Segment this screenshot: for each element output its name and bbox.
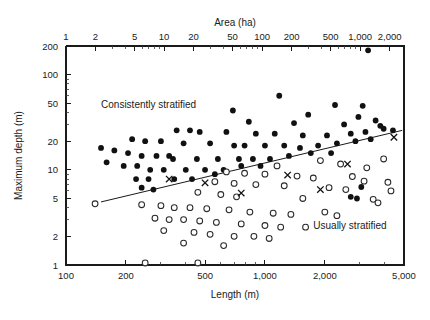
data-point-open — [171, 205, 177, 211]
data-point-filled — [133, 176, 139, 182]
data-point-filled — [242, 143, 248, 149]
y-tick-label: 20 — [47, 136, 58, 147]
data-point-filled — [111, 147, 117, 153]
data-point-cross — [284, 172, 290, 178]
top-tick-label: 2,000 — [378, 31, 402, 42]
tick-labels-group: 1002005001,0002,0005,0001251020501002001… — [42, 31, 416, 281]
scatter-plot-figure: 1002005001,0002,0005,0001251020501002001… — [0, 0, 430, 320]
data-point-open — [181, 217, 187, 223]
data-point-filled — [250, 156, 256, 162]
data-point-filled — [187, 127, 193, 133]
y-tick-label: 1 — [53, 260, 58, 271]
x-tick-label: 500 — [197, 270, 213, 281]
data-point-open — [343, 187, 349, 193]
data-point-open — [197, 218, 203, 224]
data-point-cross — [238, 190, 244, 196]
data-point-open — [152, 215, 158, 221]
y-tick-label: 2 — [53, 231, 58, 242]
data-point-filled — [356, 114, 362, 120]
data-point-filled — [238, 163, 244, 169]
data-point-open — [334, 213, 340, 219]
top-tick-label: 1 — [63, 31, 68, 42]
data-point-open — [375, 200, 381, 206]
data-point-filled — [305, 112, 311, 118]
y-tick-label: 50 — [47, 98, 58, 109]
data-point-open — [388, 188, 394, 194]
data-point-open — [204, 206, 210, 212]
data-point-filled — [300, 132, 306, 138]
data-point-open — [253, 182, 259, 188]
data-point-filled — [134, 163, 140, 169]
data-point-filled — [170, 156, 176, 162]
data-point-open — [242, 170, 248, 176]
top-tick-label: 500 — [323, 31, 339, 42]
data-point-filled — [104, 159, 110, 165]
data-point-filled — [125, 150, 131, 156]
data-point-filled — [154, 153, 160, 159]
data-point-filled — [194, 156, 200, 162]
tick-marks-group — [66, 46, 404, 265]
axes-group — [66, 46, 404, 265]
data-point-filled — [158, 138, 164, 144]
y-tick-label: 5 — [53, 193, 58, 204]
data-point-filled — [207, 140, 213, 146]
axis-titles-group: Area (ha)Length (m)Maximum depth (m) — [13, 17, 259, 300]
data-point-filled — [365, 47, 371, 53]
data-point-filled — [142, 138, 148, 144]
left-axis-title: Maximum depth (m) — [13, 111, 24, 200]
data-point-open — [207, 231, 213, 237]
y-tick-label: 10 — [47, 164, 58, 175]
data-point-open — [213, 220, 219, 226]
data-point-open — [262, 223, 268, 229]
data-point-open — [166, 217, 172, 223]
data-point-open — [231, 233, 237, 239]
data-point-filled — [341, 122, 347, 128]
data-point-open — [318, 158, 324, 164]
data-point-filled — [139, 153, 145, 159]
data-points-group — [92, 47, 397, 265]
data-point-open — [281, 183, 287, 189]
data-point-open — [288, 212, 294, 218]
top-tick-label: 50 — [227, 31, 238, 42]
data-point-filled — [174, 127, 180, 133]
data-point-cross — [317, 186, 323, 192]
data-point-filled — [328, 150, 334, 156]
data-point-filled — [373, 118, 379, 124]
data-point-open — [251, 233, 257, 239]
data-point-open — [385, 179, 391, 185]
data-point-filled — [324, 132, 330, 138]
data-point-open — [310, 175, 316, 181]
data-point-filled — [360, 103, 366, 109]
data-point-open — [270, 210, 276, 216]
data-point-open — [338, 161, 344, 167]
data-point-filled — [354, 196, 360, 202]
data-point-filled — [315, 143, 321, 149]
data-point-open — [278, 224, 284, 230]
data-point-filled — [286, 153, 292, 159]
data-point-filled — [231, 143, 237, 149]
data-point-cross — [344, 161, 350, 167]
data-point-cross — [391, 134, 397, 140]
data-point-open — [262, 171, 268, 177]
data-point-open — [158, 203, 164, 209]
region-label-usually-stratified: Usually stratified — [313, 220, 386, 231]
data-point-open — [322, 209, 328, 215]
data-point-filled — [363, 129, 369, 135]
data-point-open — [139, 202, 145, 208]
x-tick-label: 2,000 — [313, 270, 337, 281]
region-label-consistently-stratified: Consistently stratified — [101, 99, 196, 110]
top-tick-label: 20 — [188, 31, 199, 42]
data-point-open — [274, 163, 280, 169]
data-point-filled — [171, 176, 177, 182]
bottom-axis-title: Length (m) — [211, 289, 259, 300]
data-point-filled — [197, 129, 203, 135]
data-point-filled — [348, 131, 354, 137]
data-point-filled — [151, 187, 157, 193]
data-point-open — [303, 224, 309, 230]
top-axis-title: Area (ha) — [214, 17, 256, 28]
data-point-filled — [267, 156, 273, 162]
data-point-open — [92, 201, 98, 207]
data-point-open — [266, 236, 272, 242]
plot-canvas: 1002005001,0002,0005,0001251020501002001… — [0, 0, 430, 320]
top-tick-label: 10 — [159, 31, 170, 42]
